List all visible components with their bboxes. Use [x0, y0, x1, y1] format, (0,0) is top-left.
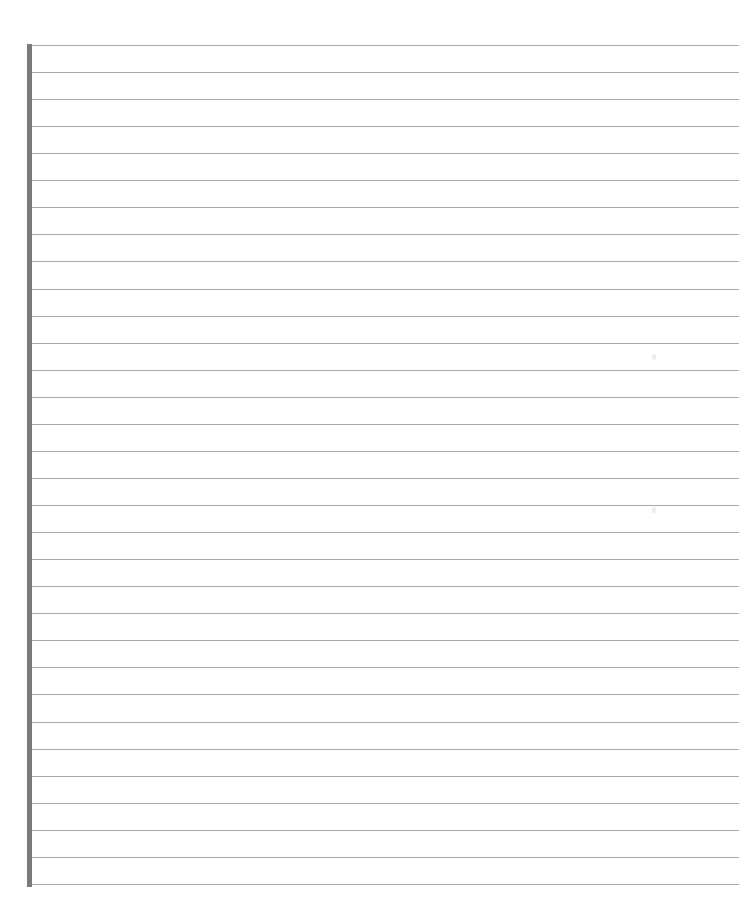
- ruled-line: [32, 803, 739, 804]
- ruled-line: [32, 830, 739, 831]
- ruled-line: [32, 505, 739, 506]
- ruled-line: [32, 559, 739, 560]
- ruled-line: [32, 180, 739, 181]
- ruled-line: [32, 370, 739, 371]
- ruled-line: [32, 478, 739, 479]
- ruled-line: [32, 694, 739, 695]
- ruled-line: [32, 749, 739, 750]
- ruled-line: [32, 722, 739, 723]
- ruled-line: [32, 289, 739, 290]
- ruled-line: [32, 153, 739, 154]
- ruled-line: [32, 776, 739, 777]
- ruled-line: [32, 424, 739, 425]
- ruled-line: [32, 640, 739, 641]
- ruled-line: [32, 884, 739, 885]
- left-margin-bar: [27, 44, 32, 887]
- ruled-line: [32, 99, 739, 100]
- lined-paper-sheet: [27, 44, 739, 887]
- ruled-line: [32, 72, 739, 73]
- ruled-line: [32, 613, 739, 614]
- ruled-line: [32, 532, 739, 533]
- faint-smudge: [652, 354, 656, 360]
- ruled-line: [32, 451, 739, 452]
- ruled-line: [32, 45, 739, 46]
- faint-smudge: [652, 507, 656, 513]
- ruled-line: [32, 316, 739, 317]
- ruled-line: [32, 207, 739, 208]
- ruled-line: [32, 261, 739, 262]
- ruled-line: [32, 857, 739, 858]
- ruled-line: [32, 586, 739, 587]
- ruled-line: [32, 343, 739, 344]
- ruled-line: [32, 667, 739, 668]
- ruled-line: [32, 397, 739, 398]
- ruled-line: [32, 126, 739, 127]
- ruled-line: [32, 234, 739, 235]
